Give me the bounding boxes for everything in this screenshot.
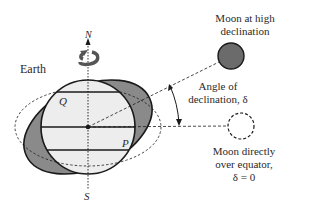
arc-arrowhead-bottom-icon: [176, 119, 182, 126]
arc-arrowhead-top-icon: [168, 84, 173, 91]
moon-high-declination: [218, 43, 244, 69]
moon-equator-caption-line2: over equator,: [204, 158, 284, 171]
point-p-label: P: [122, 137, 129, 150]
angle-caption: Angle of declination, δ: [178, 80, 258, 106]
angle-caption-line1: Angle of: [178, 80, 258, 93]
point-q-label: Q: [59, 95, 67, 108]
moon-high-caption-line1: Moon at high: [195, 12, 295, 25]
angle-caption-line2: declination, δ: [178, 93, 258, 106]
north-label: N: [85, 28, 92, 41]
moon-high-caption: Moon at high declination: [195, 12, 295, 38]
moon-over-equator: [228, 113, 254, 139]
moon-equator-caption-line1: Moon directly: [204, 145, 284, 158]
moon-equator-caption: Moon directly over equator, δ = 0: [204, 145, 284, 184]
rotation-arrow-icon: [80, 50, 98, 64]
moon-equator-caption-line3: δ = 0: [204, 171, 284, 184]
south-label: S: [84, 190, 90, 203]
moon-high-caption-line2: declination: [195, 25, 295, 38]
earth-label: Earth: [20, 63, 46, 76]
